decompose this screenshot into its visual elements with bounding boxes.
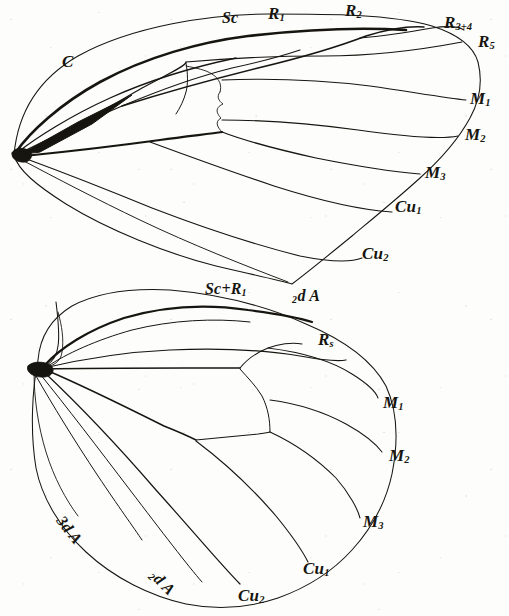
label-forewing-R2: R2 xyxy=(345,2,362,19)
label-hindwing-Rs: Rs xyxy=(318,331,334,348)
vein-M2 xyxy=(222,120,458,138)
label-hindwing-Cu1: Cu1 xyxy=(303,560,329,577)
vein-hindwing-M1 xyxy=(268,348,378,398)
vein-hindwing-Cu1 xyxy=(196,441,308,562)
vein-hindwing-M2 xyxy=(270,400,382,452)
vein-R2 xyxy=(122,27,424,106)
vein-3d-A xyxy=(36,376,142,540)
vein-R5 xyxy=(186,42,462,62)
label-forewing-R1: R1 xyxy=(268,5,285,22)
hindwing-discal-upper xyxy=(44,368,240,369)
label-hindwing-2d-A-upper: 2d A xyxy=(292,288,320,304)
label-forewing-Sc: Sc xyxy=(222,10,238,26)
vein-M1 xyxy=(222,79,466,100)
hindwing-outline xyxy=(32,290,396,608)
label-hindwing-Cu2: Cu2 xyxy=(238,587,264,604)
label-forewing-R5: R5 xyxy=(478,33,495,50)
label-forewing-C: C xyxy=(62,53,74,70)
label-forewing-Cu1: Cu1 xyxy=(395,198,421,215)
vein-Rs xyxy=(44,349,346,368)
hindwing-discal-anterior xyxy=(240,343,302,368)
vein-Sc-R1 xyxy=(44,307,312,366)
label-hindwing-Sc-R1: Sc+R1 xyxy=(205,281,247,297)
label-hindwing-M3: M3 xyxy=(363,513,384,530)
forewing-crossvein-zigzag xyxy=(217,92,223,132)
label-hindwing-M2: M2 xyxy=(389,447,410,464)
hindwing-discal-crossvein xyxy=(240,369,270,432)
vein-hindwing-M3 xyxy=(270,432,360,518)
figure-canvas: C Sc R1 R2 R3+4 R5 M1 M2 M3 Cu1 Cu2 Sc+R… xyxy=(0,0,509,616)
label-forewing-M1: M1 xyxy=(470,90,491,107)
hindwing-group xyxy=(27,290,396,608)
label-hindwing-M1: M1 xyxy=(383,394,404,411)
vein-M3 xyxy=(222,132,420,174)
vein-hindwing-Cu2 xyxy=(44,372,240,584)
wing-venation-artwork xyxy=(0,0,509,616)
label-forewing-M3: M3 xyxy=(425,164,446,181)
forewing-group xyxy=(12,14,480,284)
hindwing-discal-lower xyxy=(196,432,270,440)
forewing-anal-vein xyxy=(22,160,288,282)
label-forewing-M2: M2 xyxy=(465,126,486,143)
label-forewing-Cu2: Cu2 xyxy=(362,245,388,262)
vein-Cu1 xyxy=(150,142,392,212)
label-forewing-R3-4: R3+4 xyxy=(444,14,472,31)
hindwing-subcosta-2 xyxy=(48,320,250,366)
